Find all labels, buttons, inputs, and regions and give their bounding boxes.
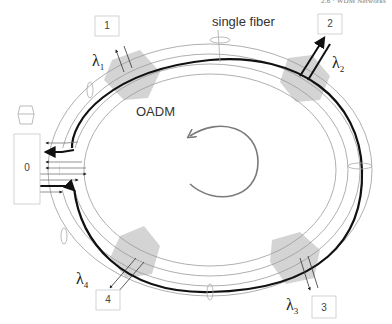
lambda-1-label: λ1 bbox=[92, 52, 104, 72]
node-label-4: 4 bbox=[96, 294, 120, 305]
lambda-2-label: λ2 bbox=[332, 54, 344, 74]
oadm-ring-diagram: 2.6 · WDM Networks single fiber OADM 1 2… bbox=[0, 0, 392, 324]
node-label-3: 3 bbox=[312, 302, 336, 313]
node-label-0: 0 bbox=[14, 162, 40, 173]
oadm-label: OADM bbox=[136, 104, 175, 119]
fiber-spool-icon bbox=[18, 106, 34, 124]
node-label-2: 2 bbox=[318, 18, 342, 29]
rotation-arrow bbox=[190, 126, 258, 196]
lambda-4-label: λ4 bbox=[76, 270, 88, 290]
running-header: 2.6 · WDM Networks bbox=[321, 0, 386, 5]
node-label-1: 1 bbox=[95, 20, 119, 31]
oadm-node-1 bbox=[104, 50, 160, 100]
single-fiber-label: single fiber bbox=[212, 14, 275, 29]
oadm-node-2 bbox=[280, 55, 330, 102]
ring-diagram-canvas bbox=[0, 0, 392, 324]
lambda-3-label: λ3 bbox=[286, 296, 298, 316]
